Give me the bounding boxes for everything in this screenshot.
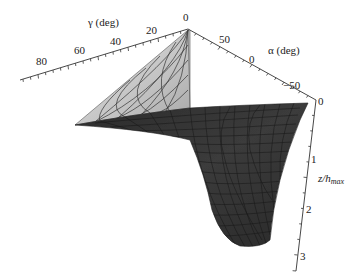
surface-plot [0, 0, 359, 280]
gamma-tick-40: 40 [110, 36, 121, 47]
z-tick-1: 1 [311, 154, 317, 165]
alpha-tick-0: 0 [249, 54, 255, 65]
gamma-tick-80: 80 [36, 56, 47, 67]
z-axis-title-sub: max [331, 177, 344, 186]
z-axis-title-main: z/h [318, 172, 331, 184]
lower-surface [75, 30, 308, 247]
alpha-tick-50: 50 [219, 34, 230, 45]
gamma-tick-0: 0 [183, 12, 189, 23]
gamma-tick-60: 60 [74, 45, 85, 56]
alpha-axis-title: α (deg) [268, 45, 300, 56]
alpha-tick-end-0: 0 [318, 96, 324, 107]
gamma-axis-title: γ (deg) [88, 17, 119, 28]
z-axis-title: z/hmax [318, 173, 344, 186]
alpha-tick-neg50: −50 [283, 80, 300, 91]
z-tick-2: 2 [306, 204, 312, 215]
gamma-tick-20: 20 [146, 25, 157, 36]
z-tick-3: 3 [300, 251, 306, 262]
